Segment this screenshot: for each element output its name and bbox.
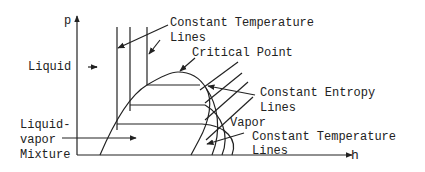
const-temp-bottom-label-2: Lines (252, 144, 288, 158)
mixture-label-3: Mixture (20, 148, 70, 162)
mixture-label-1: Liquid- (20, 118, 70, 132)
const-temp-top-label-2: Lines (170, 31, 206, 45)
const-temp-bottom-label-1: Constant Temperature (252, 130, 396, 144)
const-temp-top-label-1: Constant Temperature (170, 16, 314, 30)
critical-point-label: Critical Point (192, 46, 293, 60)
liquid-label: Liquid (28, 60, 71, 74)
const-entropy-label-1: Constant Entropy (260, 86, 375, 100)
y-axis-label: p (64, 14, 71, 28)
const-entropy-label-2: Lines (260, 101, 296, 115)
mixture-label-2: vapor (20, 133, 56, 147)
x-axis-label: h (351, 149, 359, 163)
vapor-label: Vapor (230, 116, 266, 130)
